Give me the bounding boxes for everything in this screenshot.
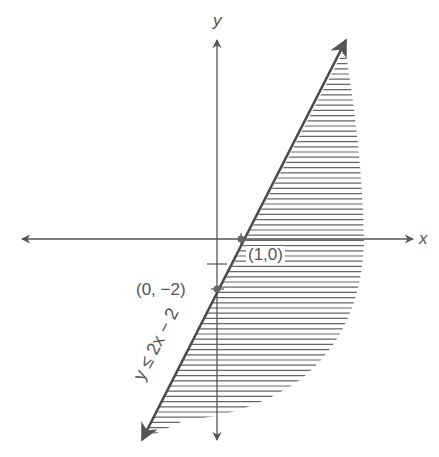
point-0-neg2 (214, 286, 221, 293)
y-axis-label: y (213, 12, 222, 29)
shaded-region (130, 48, 370, 438)
point-label-0-neg2: (0, −2) (136, 281, 186, 298)
point-label-1-0: (1,0) (246, 246, 285, 263)
x-axis-label: x (419, 230, 428, 247)
point-1-0 (238, 236, 245, 243)
graph-canvas (0, 0, 439, 457)
